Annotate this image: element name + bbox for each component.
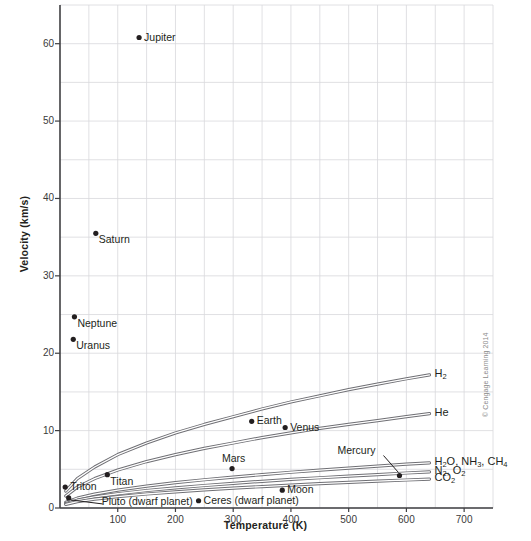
point-label-venus: Venus [290, 422, 319, 433]
y-tick-label: 40 [26, 192, 54, 203]
data-point-moon [280, 488, 285, 493]
point-label-uranus: Uranus [76, 340, 110, 351]
y-tick-label: 10 [26, 425, 54, 436]
y-tick-label: 20 [26, 347, 54, 358]
point-label-titan: Titan [110, 476, 133, 487]
x-tick-label: 500 [329, 514, 369, 525]
point-label-mars: Mars [222, 453, 245, 464]
point-label-jupiter: Jupiter [144, 32, 176, 43]
y-tick-label: 50 [26, 115, 54, 126]
escape-velocity-chart-figure: Velocity (km/s) Temperature (K) © Cengag… [0, 0, 531, 541]
point-label-mercury: Mercury [337, 445, 375, 456]
curve-label-co2: CO2 [434, 471, 455, 487]
data-point-pluto-dwarf-planet- [66, 495, 71, 500]
x-tick-label: 300 [213, 514, 253, 525]
data-point-ceres-dwarf-planet- [196, 498, 201, 503]
y-axis-title: Velocity (km/s) [18, 164, 30, 304]
point-label-triton: Triton [70, 481, 96, 492]
data-point-mercury [397, 473, 402, 478]
data-point-triton [63, 485, 68, 490]
data-point-earth [249, 419, 254, 424]
x-tick-label: 600 [386, 514, 426, 525]
axis-ticks [55, 44, 464, 512]
x-tick-label: 100 [98, 514, 138, 525]
data-point-neptune [72, 314, 77, 319]
data-point-jupiter [136, 35, 141, 40]
data-point-uranus [71, 337, 76, 342]
y-tick-label: 0 [26, 502, 54, 513]
x-tick-label: 700 [444, 514, 484, 525]
data-point-venus [283, 425, 288, 430]
point-label-saturn: Saturn [99, 234, 130, 245]
point-label-ceres-dwarf-planet-: Ceres (dwarf planet) [204, 495, 299, 506]
copyright-credit: © Cengage Learning 2014 [482, 307, 489, 417]
x-tick-label: 200 [155, 514, 195, 525]
point-label-neptune: Neptune [77, 318, 117, 329]
data-point-saturn [93, 231, 98, 236]
data-points [63, 35, 402, 503]
point-label-pluto-dwarf-planet-: Pluto (dwarf planet) [102, 496, 193, 507]
y-tick-label: 60 [26, 38, 54, 49]
y-tick-label: 30 [26, 270, 54, 281]
x-tick-label: 400 [271, 514, 311, 525]
axis-lines [60, 5, 493, 508]
data-point-titan [105, 472, 110, 477]
curve-label-h2: H2 [434, 367, 446, 383]
curve-label-he: He [434, 406, 448, 418]
gridlines [60, 5, 493, 508]
point-label-earth: Earth [257, 415, 282, 426]
data-point-mars [229, 466, 234, 471]
